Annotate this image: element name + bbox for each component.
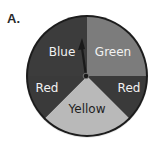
spinner-hub bbox=[83, 73, 89, 79]
section-label-green: Green bbox=[95, 45, 131, 59]
spinner: BlueGreenRedYellowRed bbox=[0, 0, 159, 145]
section-label-red: Red bbox=[36, 81, 59, 95]
section-label-yellow: Yellow bbox=[68, 102, 106, 116]
section-label-blue: Blue bbox=[49, 45, 76, 59]
section-label-red: Red bbox=[118, 81, 141, 95]
